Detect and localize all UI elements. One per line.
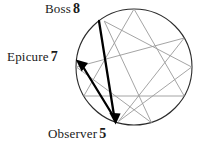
label-observer: Observer5 bbox=[48, 127, 106, 141]
label-observer-name: Observer bbox=[48, 126, 97, 141]
arrow-observer-to-epicure bbox=[76, 60, 114, 117]
enneagram-figure: Boss8 Epicure7 Observer5 bbox=[0, 0, 204, 147]
label-boss-name: Boss bbox=[45, 1, 71, 16]
label-boss: Boss8 bbox=[45, 2, 80, 16]
label-epicure-number: 7 bbox=[49, 49, 58, 64]
label-boss-number: 8 bbox=[71, 1, 80, 16]
label-epicure: Epicure7 bbox=[7, 50, 58, 64]
enneagram-hexad bbox=[76, 21, 191, 123]
enneagram-circle bbox=[76, 9, 192, 125]
enneagram-svg bbox=[0, 0, 204, 147]
label-observer-number: 5 bbox=[97, 126, 106, 141]
label-epicure-name: Epicure bbox=[7, 49, 49, 64]
